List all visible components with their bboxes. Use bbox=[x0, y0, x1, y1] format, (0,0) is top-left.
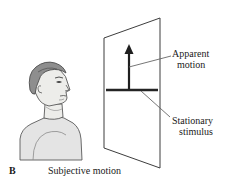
head-profile-icon bbox=[20, 62, 82, 160]
figure-caption: Subjective motion bbox=[48, 165, 121, 176]
annotation-apparent-motion: Apparent motion bbox=[172, 48, 209, 70]
annotation-apparent-line2: motion bbox=[172, 59, 209, 70]
screen-panel-icon bbox=[104, 18, 160, 168]
annotation-stationary-line1: Stationary bbox=[172, 115, 213, 126]
figure-artwork bbox=[0, 0, 227, 183]
panel-letter: B bbox=[9, 165, 16, 176]
annotation-apparent-line1: Apparent bbox=[172, 48, 209, 59]
annotation-stationary-stimulus: Stationary stimulus bbox=[172, 115, 213, 137]
annotation-stationary-line2: stimulus bbox=[172, 126, 213, 137]
figure-panel-b: Apparent motion Stationary stimulus B Su… bbox=[0, 0, 227, 183]
